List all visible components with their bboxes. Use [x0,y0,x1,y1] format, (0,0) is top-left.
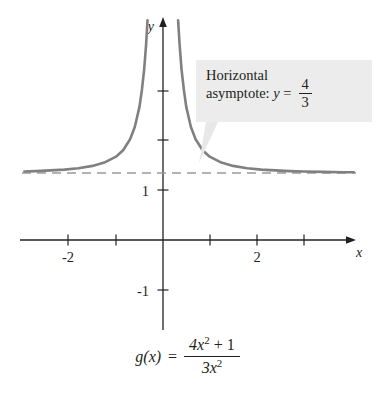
x-axis-label: x [355,245,363,260]
y-tick-label-1: 1 [142,183,149,199]
equation-denominator: 3x2 [197,359,228,377]
function-definition: g(x) = 4x2 + 1 3x2 [0,336,375,377]
x-tick-label--2: -2 [62,249,74,265]
x-axis-arrow [346,236,356,244]
callout-fraction-denominator: 3 [299,95,310,110]
equation-fraction: 4x2 + 1 3x2 [184,336,240,377]
equation-lhs: g(x) [135,348,161,366]
callout-equals: = [283,85,291,101]
equation-numerator: 4x2 + 1 [184,336,240,354]
callout-line-1: Horizontal [206,67,268,83]
x-tick-label-2: 2 [253,249,260,265]
y-axis-arrow [159,17,167,27]
x-axis [20,235,356,246]
horizontal-asymptote-callout: Horizontal asymptote: y = 4 3 [196,60,372,122]
equation-fraction-bar [184,356,240,357]
callout-fraction: 4 3 [299,77,312,110]
callout-line-2: asymptote: [206,85,270,101]
figure-container: -2 2 1 -1 y x Horizontal asymptote: y [0,0,375,410]
y-tick-label--1: -1 [137,283,149,299]
function-graph: -2 2 1 -1 y x [0,0,375,330]
callout-fraction-numerator: 4 [299,77,310,92]
callout-variable: y [273,85,279,101]
callout-text-block: Horizontal asymptote: y = [206,67,292,102]
equation-equals: = [168,348,177,366]
